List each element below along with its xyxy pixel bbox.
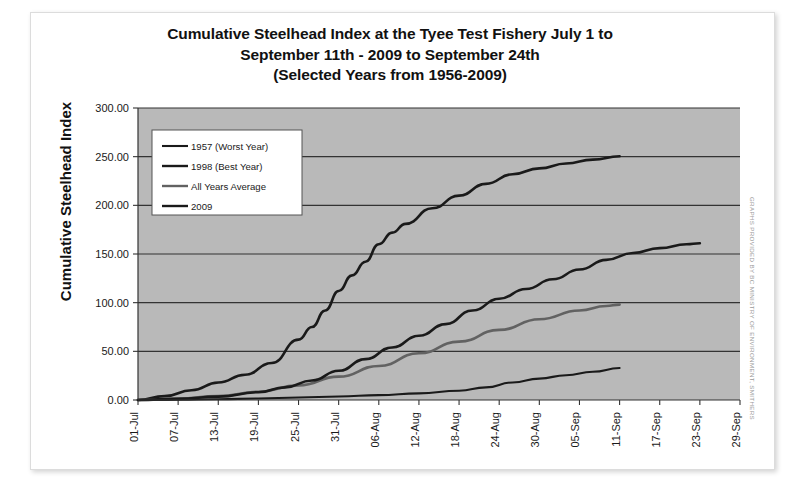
- y-axis-tick-label: 100.00: [95, 297, 129, 309]
- x-axis-tick-label: 31-Jul: [329, 412, 341, 442]
- y-axis-tick-label: 50.00: [101, 345, 129, 357]
- y-axis-tick-label: 150.00: [95, 248, 129, 260]
- legend-label-3: 2009: [191, 201, 212, 212]
- x-axis-tick-label: 24-Aug: [489, 412, 501, 447]
- x-axis-tick-labels: 01-Jul07-Jul13-Jul19-Jul25-Jul31-Jul06-A…: [128, 412, 742, 447]
- x-axis-tick-label: 23-Sep: [690, 412, 702, 447]
- legend-label-2: All Years Average: [191, 181, 266, 192]
- x-axis-tick-label: 13-Jul: [208, 412, 220, 442]
- chart-figure: Cumulative Steelhead Index at the Tyee T…: [0, 0, 803, 495]
- y-axis-tick-label: 250.00: [95, 151, 129, 163]
- x-axis-tick-label: 07-Jul: [168, 412, 180, 442]
- y-axis-tick-label: 0.00: [108, 394, 129, 406]
- legend-label-1: 1998 (Best Year): [191, 161, 262, 172]
- y-axis-tick-label: 200.00: [95, 199, 129, 211]
- x-axis-tick-label: 17-Sep: [650, 412, 662, 447]
- y-axis-tick-label: 300.00: [95, 102, 129, 114]
- legend-label-0: 1957 (Worst Year): [191, 141, 268, 152]
- x-axis-tick-label: 18-Aug: [449, 412, 461, 447]
- x-axis-tick-label: 29-Sep: [730, 412, 742, 447]
- x-axis-tick-label: 19-Jul: [248, 412, 260, 442]
- x-axis-tick-label: 12-Aug: [409, 412, 421, 447]
- chart-legend: 1957 (Worst Year)1998 (Best Year)All Yea…: [152, 130, 302, 215]
- x-axis-tick-label: 06-Aug: [369, 412, 381, 447]
- x-axis-tick-label: 25-Jul: [289, 412, 301, 442]
- y-axis-tick-labels: 0.0050.00100.00150.00200.00250.00300.00: [95, 102, 129, 406]
- x-axis-ticks: [138, 400, 740, 405]
- y-axis-ticks: [133, 108, 138, 400]
- x-axis-tick-label: 30-Aug: [529, 412, 541, 447]
- x-axis-tick-label: 01-Jul: [128, 412, 140, 442]
- x-axis-tick-label: 11-Sep: [610, 412, 622, 447]
- x-axis-tick-label: 05-Sep: [569, 412, 581, 447]
- plot-area: 0.0050.00100.00150.00200.00250.00300.00 …: [0, 0, 803, 495]
